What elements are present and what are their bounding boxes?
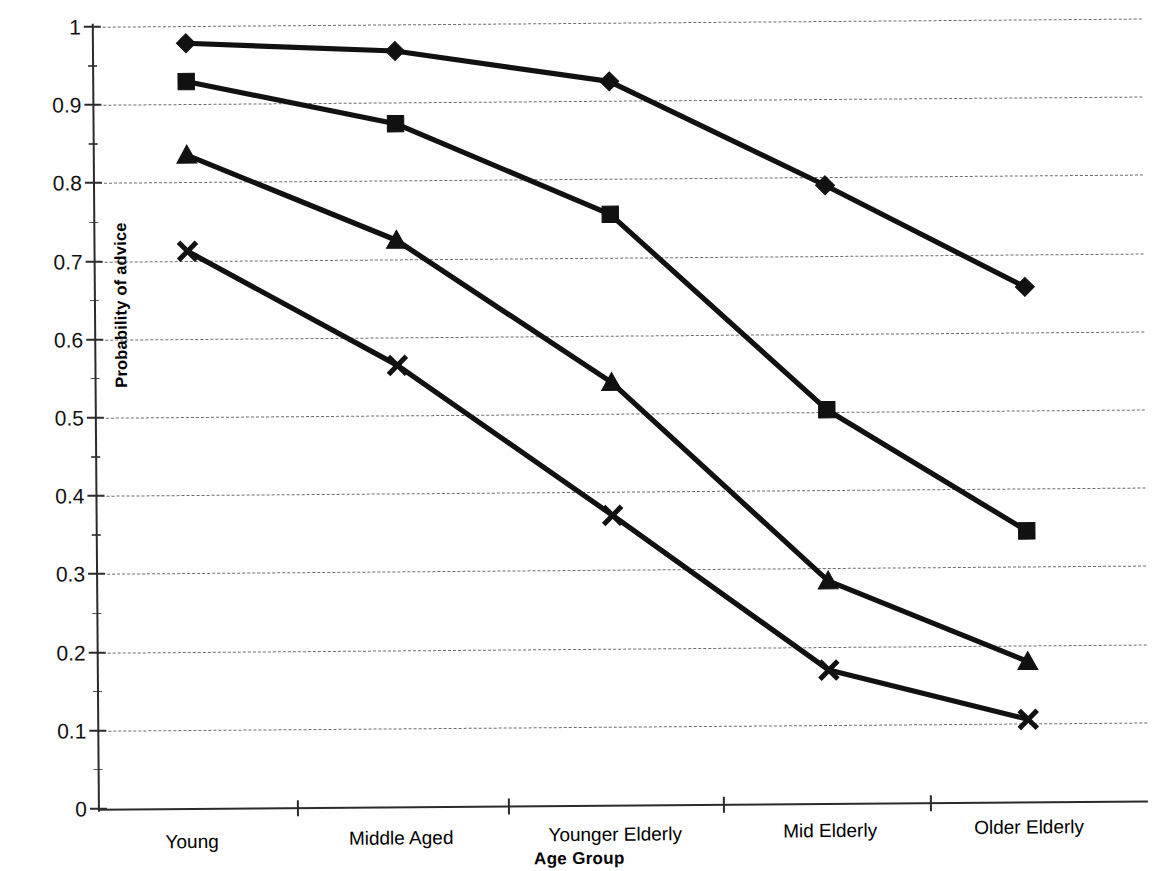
data-point-diamond-marker [600, 72, 619, 91]
series-line [186, 75, 1027, 537]
data-point-x-marker [388, 356, 406, 374]
chart-figure: Probability of advice 00.10.20.30.40.50.… [0, 0, 1152, 871]
data-point-x-marker [604, 506, 622, 524]
series-line [188, 245, 1029, 726]
chart-tilt-wrapper: Probability of advice 00.10.20.30.40.50.… [0, 0, 1152, 871]
data-point-diamond-marker [815, 176, 834, 195]
series-2 [178, 67, 1035, 546]
data-point-square-marker [602, 206, 619, 223]
data-point-square-marker [387, 115, 404, 132]
data-point-diamond-marker [176, 34, 195, 53]
data-point-x-marker [178, 242, 196, 260]
data-point-square-marker [1018, 523, 1035, 540]
series-1 [176, 27, 1034, 303]
plot-area [0, 0, 1152, 871]
data-point-triangle-marker [177, 145, 197, 163]
series-4 [178, 236, 1037, 735]
data-point-square-marker [819, 401, 836, 418]
data-point-square-marker [178, 73, 195, 90]
data-point-diamond-marker [385, 41, 404, 60]
data-point-diamond-marker [1015, 277, 1034, 296]
